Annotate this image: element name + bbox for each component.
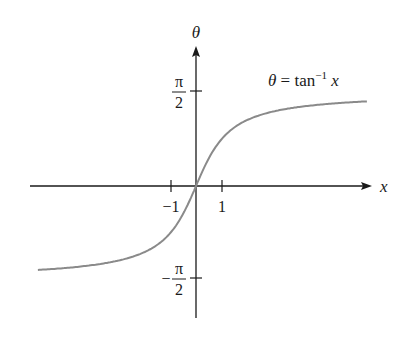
y-tick-label-neg-sign: −	[161, 270, 170, 287]
chart-figure: θ x −1 1 π 2 − π 2 θ = tan−1 x	[0, 0, 404, 342]
y-tick-label-pi-num: π	[175, 73, 183, 90]
y-tick-label-neg-pi-den: 2	[175, 281, 183, 298]
x-tick-label-neg1: −1	[162, 198, 179, 215]
function-label: θ = tan−1 x	[268, 69, 339, 90]
y-tick-label-neg-pi-num: π	[175, 260, 183, 277]
x-axis-label: x	[379, 177, 388, 196]
y-axis-label: θ	[192, 23, 200, 42]
arctan-plot: θ x −1 1 π 2 − π 2 θ = tan−1 x	[0, 0, 404, 342]
x-tick-label-1: 1	[218, 198, 226, 215]
y-tick-label-pi-den: 2	[175, 94, 183, 111]
